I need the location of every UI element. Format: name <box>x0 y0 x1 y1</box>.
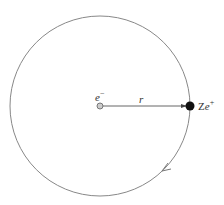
nucleus-dot <box>186 102 195 111</box>
electron-label: e− <box>95 90 104 103</box>
bohr-orbit-diagram <box>0 0 224 205</box>
nucleus-label: Ze+ <box>198 99 214 112</box>
radius-label: r <box>139 94 143 105</box>
electron-dot <box>97 103 103 109</box>
